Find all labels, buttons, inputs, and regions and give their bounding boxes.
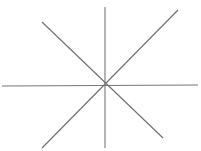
- asterisk-figure-svg: [0, 0, 201, 151]
- canvas-background: [0, 0, 201, 151]
- figure-canvas: [0, 0, 201, 151]
